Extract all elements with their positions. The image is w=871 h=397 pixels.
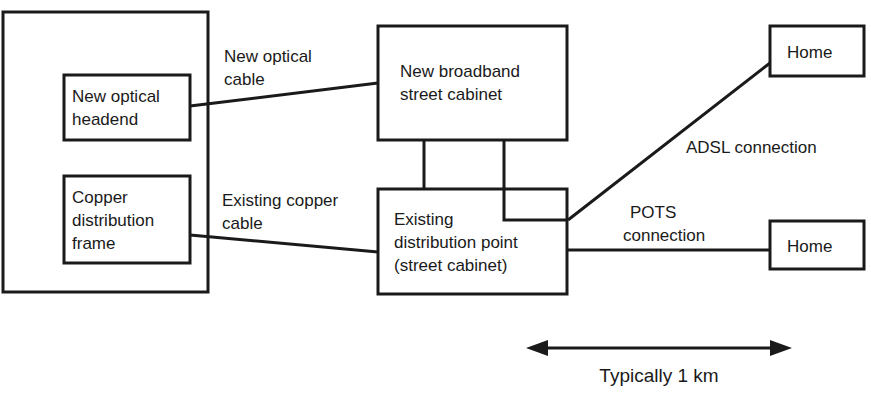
- copper-distribution-frame-label-line2: distribution: [72, 211, 154, 230]
- broadband-cabinet-box: [378, 26, 567, 140]
- scale-arrow-head-left: [526, 340, 548, 356]
- optical-cable-label-line2: cable: [224, 70, 265, 89]
- broadband-cabinet-label-line2: street cabinet: [400, 85, 502, 104]
- adsl-connection-label: ADSL connection: [686, 138, 817, 157]
- scale-arrow: [526, 340, 792, 356]
- distribution-point-label-line1: Existing: [394, 210, 454, 229]
- copper-cable-link: [190, 235, 378, 252]
- copper-distribution-frame-label-line3: frame: [72, 234, 115, 253]
- diagram-canvas: New optical headend Copper distribution …: [0, 0, 871, 397]
- distribution-point-label-line3: (street cabinet): [394, 256, 507, 275]
- copper-distribution-frame-label-line1: Copper: [72, 188, 128, 207]
- scale-label: Typically 1 km: [599, 365, 718, 386]
- home-bottom-label: Home: [787, 237, 832, 256]
- scale-arrow-head-right: [770, 340, 792, 356]
- pots-connection-label-line2: connection: [623, 226, 705, 245]
- optical-headend-label-line2: headend: [72, 110, 138, 129]
- optical-headend-box: [64, 75, 190, 140]
- optical-cable-link: [190, 83, 378, 106]
- pots-connection-label-line1: POTS: [630, 203, 676, 222]
- broadband-cabinet-label-line1: New broadband: [400, 62, 520, 81]
- optical-cable-label-line1: New optical: [224, 47, 312, 66]
- network-diagram: New optical headend Copper distribution …: [0, 0, 871, 397]
- optical-headend-label-line1: New optical: [72, 87, 160, 106]
- copper-cable-label-line2: cable: [222, 214, 263, 233]
- home-top-label: Home: [787, 43, 832, 62]
- copper-cable-label-line1: Existing copper: [222, 191, 339, 210]
- distribution-point-label-line2: distribution point: [394, 233, 518, 252]
